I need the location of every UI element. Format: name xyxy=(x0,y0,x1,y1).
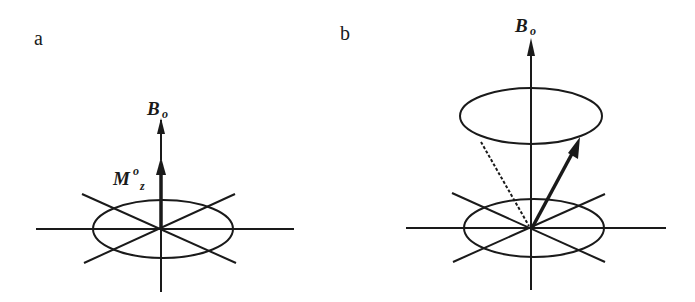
cone-edge-dashed-line xyxy=(481,142,529,226)
svg-text:o: o xyxy=(530,24,536,38)
field-label-a: B o xyxy=(146,98,168,121)
field-label-b: B o xyxy=(514,15,536,38)
magnetization-label-a: M o z xyxy=(112,164,145,193)
panel-a: a B o M o z xyxy=(34,27,294,292)
panel-b-label: b xyxy=(340,22,350,44)
svg-text:o: o xyxy=(133,164,139,178)
panel-a-label: a xyxy=(34,27,43,49)
magnetization-arrowhead-icon xyxy=(156,157,166,175)
field-arrowhead-icon xyxy=(527,38,535,56)
svg-text:z: z xyxy=(139,179,145,193)
nmr-diagram: a B o M o z b xyxy=(0,0,695,302)
svg-text:M: M xyxy=(112,168,131,189)
svg-text:B: B xyxy=(514,15,528,36)
panel-b: b B o xyxy=(340,15,666,290)
svg-text:o: o xyxy=(162,107,168,121)
svg-text:B: B xyxy=(146,98,160,119)
